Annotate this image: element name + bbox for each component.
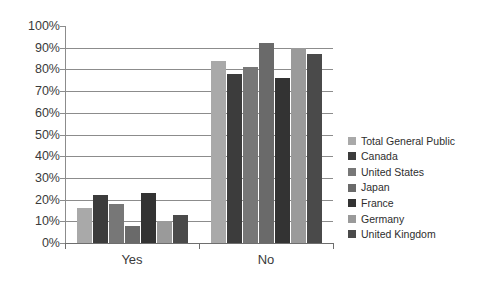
legend-item-label: Total General Public [361, 136, 455, 147]
y-axis-tick-mark [60, 113, 65, 114]
bar [157, 221, 172, 243]
bar [77, 208, 92, 243]
chart-legend: Total General PublicCanadaUnited StatesJ… [348, 133, 480, 242]
y-axis-tick-label: 90% [14, 42, 60, 55]
y-axis-tick-mark [60, 69, 65, 70]
legend-item-label: Japan [361, 182, 390, 193]
y-axis-tick-label: 20% [14, 194, 60, 207]
legend-item[interactable]: Total General Public [348, 133, 480, 149]
y-axis-tick-label: 30% [14, 172, 60, 185]
legend-swatch-icon [348, 168, 356, 176]
legend-item-label: Canada [361, 151, 398, 162]
x-axis-tick-mark [199, 243, 200, 249]
y-axis-tick-mark [60, 221, 65, 222]
legend-swatch-icon [348, 137, 356, 145]
x-axis-tick-mark [333, 243, 334, 249]
y-axis-tick-label: 0% [14, 237, 60, 250]
y-axis-tick-label: 60% [14, 107, 60, 120]
legend-item-label: United States [361, 167, 424, 178]
bar [291, 48, 306, 243]
bar [109, 204, 124, 243]
bar [125, 226, 140, 243]
legend-item[interactable]: United Kingdom [348, 227, 480, 243]
legend-item[interactable]: United States [348, 164, 480, 180]
y-axis-tick-mark [60, 26, 65, 27]
legend-item[interactable]: France [348, 195, 480, 211]
legend-item[interactable]: Canada [348, 149, 480, 165]
y-axis-tick-label: 70% [14, 85, 60, 98]
legend-swatch-icon [348, 199, 356, 207]
legend-swatch-icon [348, 184, 356, 192]
legend-swatch-icon [348, 152, 356, 160]
bar [93, 195, 108, 243]
bar-chart: 100%90%80%70%60%50%40%30%20%10%0% YesNo … [0, 0, 482, 288]
y-axis-tick-mark [60, 48, 65, 49]
bar-group-no [199, 26, 333, 243]
bar [173, 215, 188, 243]
legend-item-label: United Kingdom [361, 229, 436, 240]
legend-swatch-icon [348, 215, 356, 223]
bar [141, 193, 156, 243]
y-axis-tick-mark [60, 200, 65, 201]
y-axis-tick-label: 50% [14, 129, 60, 142]
y-axis-tick-mark [60, 91, 65, 92]
y-axis-tick-label: 100% [14, 20, 60, 33]
y-axis-tick-label: 40% [14, 150, 60, 163]
legend-item[interactable]: Japan [348, 180, 480, 196]
y-axis-tick-mark [60, 156, 65, 157]
y-axis-labels: 100%90%80%70%60%50%40%30%20%10%0% [5, 0, 60, 288]
bar-group-yes [65, 26, 199, 243]
x-axis-tick-label: Yes [92, 252, 172, 267]
legend-swatch-icon [348, 230, 356, 238]
bar [227, 74, 242, 243]
y-axis-tick-mark [60, 178, 65, 179]
y-axis-tick-label: 80% [14, 63, 60, 76]
plot-area [65, 26, 333, 243]
y-axis-tick-label: 10% [14, 215, 60, 228]
legend-item[interactable]: Germany [348, 211, 480, 227]
bar [243, 67, 258, 243]
bar [307, 54, 322, 243]
legend-item-label: France [361, 198, 394, 209]
bar [275, 78, 290, 243]
x-axis-tick-mark [65, 243, 66, 249]
bar [259, 43, 274, 243]
y-axis-tick-mark [60, 135, 65, 136]
bar [211, 61, 226, 243]
x-axis-tick-label: No [226, 252, 306, 267]
legend-item-label: Germany [361, 214, 404, 225]
